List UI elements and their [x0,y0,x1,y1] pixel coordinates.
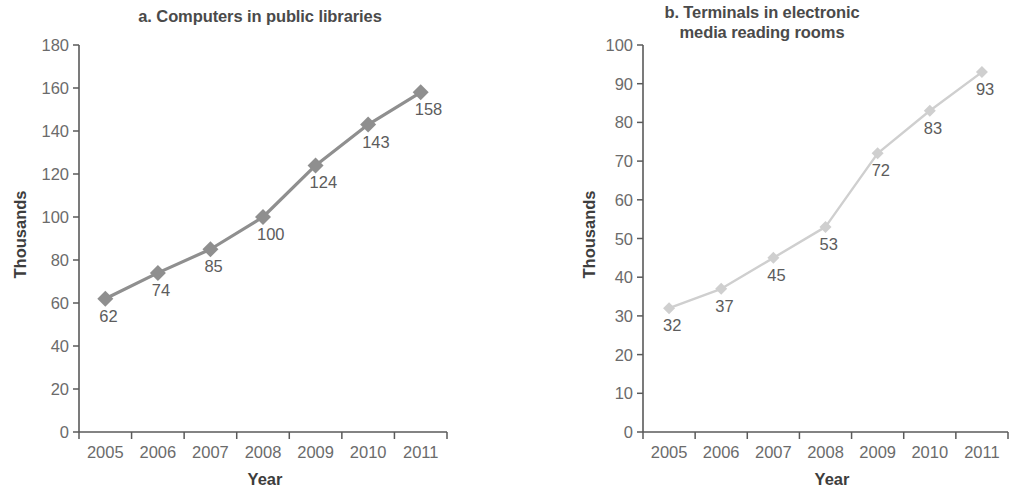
data-point-marker [150,265,166,281]
chart-a-plot-area: 0204060801001201401601802005200620072008… [0,0,507,498]
y-axis-tick-label: 160 [21,79,69,98]
x-axis-tick-label: 2008 [245,443,282,462]
data-point-label: 72 [872,161,890,180]
data-point-marker [715,283,727,295]
figure-root: a. Computers in public libraries Thousan… [0,0,1014,498]
y-axis-tick-label: 140 [21,122,69,141]
x-axis-tick-label: 2010 [911,443,948,462]
y-axis-tick-label: 60 [585,190,633,209]
x-axis-tick-label: 2006 [703,443,740,462]
x-axis-tick-label: 2011 [964,443,999,462]
data-point-label: 74 [152,281,170,300]
x-axis-tick-label: 2008 [807,443,844,462]
x-axis-tick-label: 2007 [755,443,792,462]
y-axis-tick-label: 70 [585,152,633,171]
data-point-label: 143 [362,133,390,152]
y-axis-tick-label: 20 [21,380,69,399]
chart-panel-b: b. Terminals in electronic media reading… [507,0,1014,498]
y-axis-tick-label: 180 [21,36,69,55]
y-axis-tick-label: 40 [585,268,633,287]
chart-b-plot-area: 0102030405060708090100200520062007200820… [507,0,1014,498]
y-axis-tick-label: 30 [585,306,633,325]
chart-panel-a: a. Computers in public libraries Thousan… [0,0,507,498]
data-point-label: 158 [415,100,443,119]
data-point-label: 53 [820,235,838,254]
y-axis-tick-label: 40 [21,337,69,356]
x-axis-tick-label: 2009 [859,443,896,462]
data-point-label: 93 [976,80,994,99]
data-point-marker [413,84,429,100]
x-axis-tick-label: 2009 [297,443,334,462]
x-axis-tick-label: 2006 [139,443,176,462]
chart-b-svg [507,0,1014,498]
data-point-label: 83 [924,119,942,138]
y-axis-tick-label: 100 [21,208,69,227]
x-axis-tick-label: 2011 [403,443,438,462]
data-point-label: 37 [715,297,733,316]
y-axis-tick-label: 60 [21,294,69,313]
x-axis-tick-label: 2005 [87,443,124,462]
y-axis-tick-label: 20 [585,345,633,364]
data-point-label: 100 [257,225,285,244]
y-axis-tick-label: 120 [21,165,69,184]
data-point-marker [663,302,675,314]
data-point-marker [202,241,218,257]
y-axis-tick-label: 100 [585,36,633,55]
y-axis-tick-label: 90 [585,74,633,93]
data-point-label: 124 [310,173,338,192]
y-axis-tick-label: 0 [21,423,69,442]
y-axis-tick-label: 80 [585,113,633,132]
chart-a-svg [0,0,507,498]
data-point-label: 85 [204,257,222,276]
data-point-marker [767,252,779,264]
y-axis-tick-label: 10 [585,384,633,403]
data-point-marker [97,291,113,307]
data-point-label: 62 [99,307,117,326]
series-line [669,72,982,308]
data-point-label: 45 [767,266,785,285]
y-axis-tick-label: 80 [21,251,69,270]
y-axis-tick-label: 50 [585,229,633,248]
x-axis-tick-label: 2010 [350,443,387,462]
x-axis-tick-label: 2007 [192,443,229,462]
x-axis-tick-label: 2005 [651,443,688,462]
data-point-label: 32 [663,316,681,335]
y-axis-tick-label: 0 [585,423,633,442]
